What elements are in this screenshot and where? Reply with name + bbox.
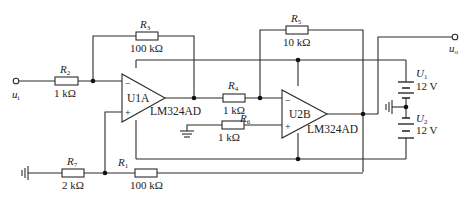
r3-value: 100 kΩ (130, 42, 163, 54)
u1a-part: LM324AD (150, 105, 201, 117)
r3-name: R3 (139, 18, 151, 32)
u1-name: U1 (416, 67, 428, 81)
u1-value: 12 V (416, 80, 438, 92)
r5-value: 10 kΩ (283, 36, 310, 48)
ground-icon (386, 100, 392, 114)
ground-icon (180, 131, 194, 137)
r4-name: R4 (227, 79, 239, 93)
circuit-diagram: ui uo R2 1 kΩ R3 100 kΩ R4 1 kΩ R5 10 kΩ… (0, 0, 467, 202)
r6-name: R6 (239, 112, 251, 126)
u1a-plus: + (125, 107, 131, 118)
r5-name: R5 (290, 12, 302, 26)
u2b-minus: − (285, 95, 291, 106)
circuit-svg: ui uo R2 1 kΩ R3 100 kΩ R4 1 kΩ R5 10 kΩ… (0, 0, 467, 202)
resistor-r2 (55, 77, 78, 85)
battery-u1 (398, 82, 414, 98)
battery-u2 (398, 118, 414, 138)
input-label: ui (12, 88, 20, 102)
u2b-plus: + (285, 121, 291, 132)
u2b-part: LM324AD (307, 123, 358, 135)
resistor-r5 (286, 26, 308, 34)
resistor-r7 (62, 169, 84, 177)
u1a-label: U1A (127, 92, 150, 104)
u1a-minus: − (125, 78, 131, 89)
resistor-r4 (223, 94, 245, 102)
r1-name: R1 (117, 156, 129, 170)
r1-value: 100 kΩ (130, 179, 163, 191)
output-terminal (452, 34, 458, 40)
r2-name: R2 (59, 63, 71, 77)
resistor-r3 (136, 32, 158, 40)
r6-value: 1 kΩ (218, 131, 240, 143)
junctions (91, 58, 409, 176)
r2-value: 1 kΩ (54, 87, 76, 99)
output-label: uo (449, 42, 459, 56)
u2-value: 12 V (416, 124, 438, 136)
u2b-label: U2B (289, 108, 311, 120)
input-terminal (13, 78, 19, 84)
r7-value: 2 kΩ (62, 179, 84, 191)
r7-name: R7 (66, 155, 78, 169)
ground-icon (22, 166, 28, 180)
resistor-r1 (135, 169, 157, 177)
